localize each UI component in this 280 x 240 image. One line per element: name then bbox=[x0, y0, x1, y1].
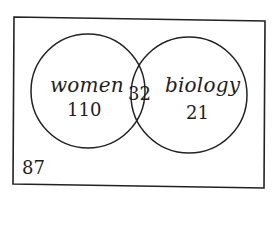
outside-count: 87 bbox=[22, 159, 45, 177]
intersection-count: 32 bbox=[128, 85, 151, 103]
biology-set-label: biology bbox=[165, 75, 240, 95]
biology-only-count: 21 bbox=[186, 104, 209, 122]
women-only-count: 110 bbox=[67, 101, 101, 119]
women-set-label: women bbox=[50, 75, 124, 95]
